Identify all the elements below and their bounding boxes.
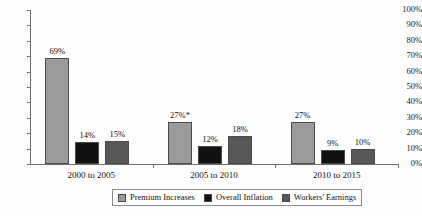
bar-value-label: 15% <box>97 129 137 139</box>
y-axis-tick-label: 20% <box>394 128 422 137</box>
bar <box>351 149 375 164</box>
y-axis-tick-label: 80% <box>394 36 422 45</box>
y-axis-line <box>30 10 31 164</box>
legend-swatch-icon <box>282 194 290 202</box>
bar <box>291 122 315 164</box>
x-axis-category-label: 2005 to 2010 <box>153 170 276 180</box>
bar <box>321 150 345 164</box>
bar-chart: 0%10%20%30%40%50%60%70%80%90%100% 69%14%… <box>0 0 422 216</box>
y-axis-tick-label: 100% <box>394 5 422 14</box>
legend-swatch-icon <box>204 194 212 202</box>
legend-item[interactable]: Workers' Earnings <box>282 193 356 202</box>
y-axis-tick-label: 50% <box>394 82 422 91</box>
x-axis-category-label: 2010 to 2015 <box>275 170 398 180</box>
legend-label: Premium Increases <box>130 193 195 202</box>
bar-value-label: 27%* <box>160 110 200 120</box>
y-axis-tick-label: 30% <box>394 113 422 122</box>
bar <box>105 141 129 164</box>
x-axis-tick <box>398 164 399 168</box>
legend-label: Overall Inflation <box>216 193 273 202</box>
x-axis-tick <box>275 164 276 168</box>
y-axis-tick-label: 40% <box>394 97 422 106</box>
bar <box>198 146 222 164</box>
bar-value-label: 27% <box>283 110 323 120</box>
y-axis-tick-label: 70% <box>394 51 422 60</box>
x-axis-line <box>30 164 398 165</box>
x-axis-category-label: 2000 to 2005 <box>30 170 153 180</box>
bar-value-label: 69% <box>37 46 77 56</box>
bar-value-label: 12% <box>190 134 230 144</box>
y-axis-tick-label: 10% <box>394 144 422 153</box>
legend-label: Workers' Earnings <box>294 193 356 202</box>
legend-item[interactable]: Premium Increases <box>118 193 195 202</box>
legend-item[interactable]: Overall Inflation <box>204 193 273 202</box>
bar <box>228 136 252 164</box>
bar <box>45 58 69 164</box>
bar-value-label: 10% <box>343 137 383 147</box>
legend-swatch-icon <box>118 194 126 202</box>
bar <box>75 142 99 164</box>
y-axis-tick-label: 90% <box>394 20 422 29</box>
x-axis-tick <box>153 164 154 168</box>
y-axis-tick-label: 60% <box>394 67 422 76</box>
bar <box>168 122 192 164</box>
bar-value-label: 18% <box>220 124 260 134</box>
chart-legend: Premium IncreasesOverall InflationWorker… <box>112 189 362 206</box>
